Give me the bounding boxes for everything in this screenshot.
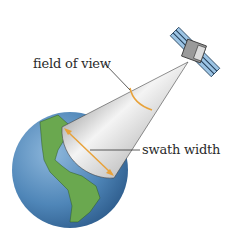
field-of-view-label: field of view [33, 56, 111, 71]
swath-width-label: swath width [142, 142, 220, 157]
satellite-swath-diagram: field of view swath width [0, 0, 233, 236]
sensor-cone [62, 62, 188, 178]
diagram-graphic [0, 0, 233, 236]
